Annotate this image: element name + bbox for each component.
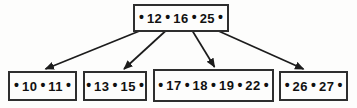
pointer-dot: • (192, 10, 197, 24)
key-value: 10 (22, 80, 37, 93)
key-value: 17 (166, 79, 181, 92)
pointer-dot: • (139, 10, 144, 24)
key-value: 19 (219, 79, 234, 92)
key-value: 11 (48, 80, 63, 93)
pointer-dot: • (165, 10, 170, 24)
pointer-dot: • (337, 78, 342, 92)
arrow-root-to-leaf-2 (124, 31, 166, 69)
pointer-dot: • (66, 78, 71, 92)
key-value: 15 (120, 80, 135, 93)
btree-leaf-node-1: •10•11• (8, 71, 77, 101)
pointer-dot: • (40, 78, 45, 92)
key-value: 22 (245, 79, 260, 92)
key-value: 13 (94, 80, 109, 93)
pointer-dot: • (14, 78, 19, 92)
pointer-dot: • (113, 78, 118, 92)
pointer-dot: • (311, 78, 316, 92)
key-value: 27 (319, 80, 334, 93)
btree-leaf-node-2: •13•15• (83, 71, 147, 101)
arrow-root-to-leaf-4 (219, 31, 304, 69)
pointer-dot: • (185, 78, 190, 92)
pointer-dot: • (86, 78, 91, 92)
pointer-dot: • (264, 78, 269, 92)
key-value: 12 (147, 12, 162, 25)
key-value: 25 (200, 12, 215, 25)
pointer-dot: • (139, 78, 144, 92)
btree-diagram: •12•16•25• •10•11• •13•15• •17•18•19•22•… (0, 0, 357, 108)
arrow-root-to-leaf-3 (193, 31, 215, 67)
pointer-dot: • (237, 78, 242, 92)
btree-root-node: •12•16•25• (133, 4, 229, 32)
pointer-dot: • (218, 10, 223, 24)
key-value: 16 (173, 12, 188, 25)
key-value: 18 (193, 79, 208, 92)
pointer-dot: • (285, 78, 290, 92)
arrow-root-to-leaf-1 (46, 31, 140, 69)
pointer-dot: • (158, 78, 163, 92)
btree-leaf-node-3: •17•18•19•22• (153, 69, 274, 102)
key-value: 26 (293, 80, 308, 93)
pointer-dot: • (211, 78, 216, 92)
btree-leaf-node-4: •26•27• (279, 71, 348, 101)
